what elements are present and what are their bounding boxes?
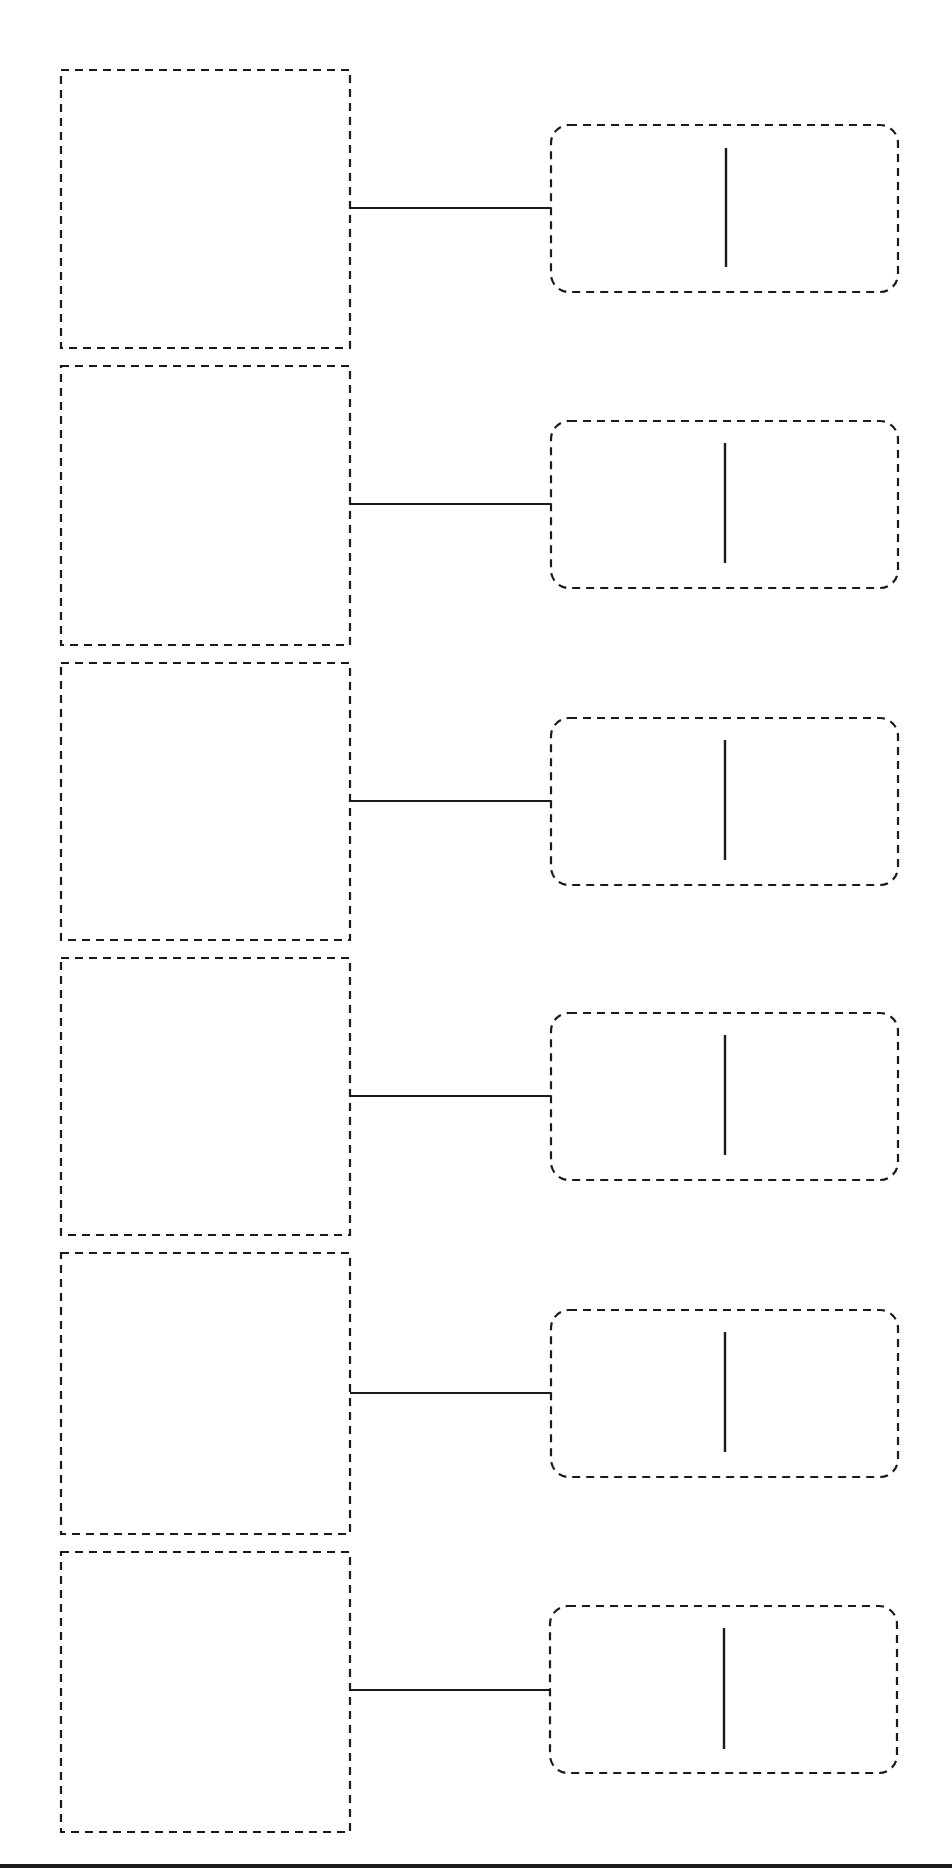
- left-box: [61, 70, 350, 348]
- diagram-row-3: [61, 663, 898, 940]
- diagram-row-4: [61, 958, 898, 1235]
- left-box: [61, 663, 350, 940]
- diagram-row-6: [61, 1552, 897, 1832]
- bottom-rule-line: [0, 1864, 952, 1868]
- left-box: [61, 366, 350, 645]
- left-box: [61, 958, 350, 1235]
- diagram-row-2: [61, 366, 898, 645]
- left-box: [61, 1253, 350, 1534]
- diagram-row-1: [61, 70, 898, 348]
- worksheet-diagram: [0, 0, 952, 1868]
- diagram-row-5: [61, 1253, 898, 1534]
- right-rounded-box: [551, 125, 898, 292]
- left-box: [61, 1552, 350, 1832]
